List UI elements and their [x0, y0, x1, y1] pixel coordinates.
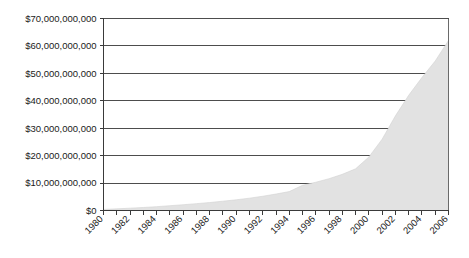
x-axis-tick-label: 2000: [348, 213, 371, 236]
x-axis-tick-label: 2004: [401, 213, 424, 236]
y-axis-tick-label: $20,000,000,000: [25, 150, 96, 161]
x-axis-tick-label: 1994: [268, 213, 291, 236]
x-axis-tick-label: 1996: [294, 213, 317, 236]
x-axis-tick-label: 1982: [109, 213, 132, 236]
y-axis-labels: $0$10,000,000,000$20,000,000,000$30,000,…: [25, 13, 96, 216]
y-axis-tick-label: $60,000,000,000: [25, 40, 96, 51]
y-axis-tick-label: $70,000,000,000: [25, 13, 96, 24]
y-axis-tick-label: $50,000,000,000: [25, 68, 96, 79]
area-series: [104, 40, 449, 210]
x-axis-tick-label: 1998: [321, 213, 344, 236]
x-axis-labels: 1980198219841986198819901992199419961998…: [82, 213, 450, 236]
x-axis-tick-label: 1992: [241, 213, 264, 236]
x-axis-tick-label: 1980: [82, 213, 105, 236]
x-axis-tick-label: 2002: [374, 213, 397, 236]
area-chart: $0$10,000,000,000$20,000,000,000$30,000,…: [0, 0, 469, 258]
x-axis-tick-label: 1984: [135, 213, 158, 236]
y-axis-tick-label: $10,000,000,000: [25, 177, 96, 188]
y-axis-tick-label: $30,000,000,000: [25, 123, 96, 134]
area-series-group: [104, 40, 449, 210]
x-axis-tick-label: 1986: [162, 213, 185, 236]
x-axis-tick-label: 2006: [427, 213, 450, 236]
x-axis-tick-label: 1990: [215, 213, 238, 236]
y-axis-tick-label: $40,000,000,000: [25, 95, 96, 106]
x-axis-ticks: [104, 211, 449, 215]
x-axis-tick-label: 1988: [188, 213, 211, 236]
chart-container: $0$10,000,000,000$20,000,000,000$30,000,…: [0, 0, 469, 258]
